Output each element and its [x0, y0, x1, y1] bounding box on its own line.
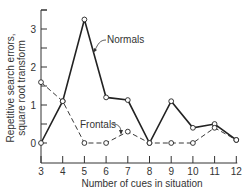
y-axis-label-line2: square root transform [16, 40, 27, 136]
x-tick-label: 9 [168, 166, 174, 177]
normals-marker-icon [169, 99, 174, 104]
x-tick-label: 6 [103, 166, 109, 177]
y-tick-label: 2 [30, 62, 36, 73]
frontals-marker-icon [169, 141, 174, 146]
x-tick-label: 11 [209, 166, 220, 177]
normals-marker-icon [191, 125, 196, 130]
frontals-marker-icon [212, 125, 217, 130]
frontals-marker-icon [191, 141, 196, 146]
y-tick-label: 1 [30, 100, 36, 111]
normals-marker-icon [39, 141, 44, 146]
normals-marker-icon [82, 17, 87, 22]
x-tick-label: 5 [82, 166, 88, 177]
x-tick-labels: 3456789101112 [38, 166, 242, 177]
frontals-marker-icon [104, 141, 109, 146]
frontals-marker-icon [147, 141, 152, 146]
x-tick-label: 10 [187, 166, 199, 177]
frontals-marker-icon [125, 129, 130, 134]
y-tick-labels: 0123 [30, 24, 36, 149]
normals-leader-arrow [95, 40, 106, 50]
x-tick-label: 12 [231, 166, 243, 177]
y-tick-label: 0 [30, 138, 36, 149]
y-tick-label: 3 [30, 24, 36, 35]
frontals-line [41, 82, 236, 143]
x-tick-label: 7 [125, 166, 131, 177]
frontals-marker-icon [60, 99, 65, 104]
line-chart: 0123 3456789101112 Number of cues in sit… [0, 0, 250, 193]
axes [41, 10, 237, 163]
normals-series-label: Normals [107, 34, 144, 45]
y-axis-label-line1: Repetitive search errors, [5, 34, 16, 143]
frontals-marker-icon [234, 138, 239, 143]
frontals-series-label: Frontals [80, 119, 116, 130]
normals-marker-icon [125, 98, 130, 103]
frontals-marker-icon [39, 80, 44, 85]
x-tick-label: 8 [147, 166, 153, 177]
normals-marker-icon [104, 95, 109, 100]
x-tick-label: 3 [38, 166, 44, 177]
frontals-marker-icon [82, 141, 87, 146]
normals-arrowhead-icon [93, 48, 97, 53]
x-axis-label: Number of cues in situation [81, 178, 202, 189]
x-tick-label: 4 [60, 166, 66, 177]
